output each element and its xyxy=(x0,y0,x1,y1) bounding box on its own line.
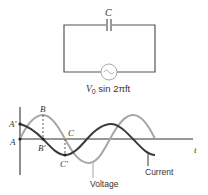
capacitor-ac-diagram: C V0 sin 2πft t A A′ B B′ C C′ xyxy=(0,0,208,195)
label-c-prime: C′ xyxy=(60,159,69,169)
current-label: Current xyxy=(145,167,174,177)
point-b-prime xyxy=(41,137,44,140)
point-a xyxy=(18,137,21,140)
circuit-wire xyxy=(112,25,155,72)
point-c-prime xyxy=(63,153,66,156)
label-a: A xyxy=(9,137,16,147)
label-b: B xyxy=(40,104,46,114)
capacitor-label: C xyxy=(105,7,112,18)
circuit: C V0 sin 2πft xyxy=(64,7,155,95)
voltage-label: Voltage xyxy=(90,179,119,189)
time-axis-label: t xyxy=(194,145,197,155)
label-a-prime: A′ xyxy=(8,119,17,129)
waveform-graph: t A A′ B B′ C C′ Voltage Current xyxy=(8,104,197,189)
point-a-prime xyxy=(18,122,21,125)
label-c: C xyxy=(68,128,75,138)
circuit-wire xyxy=(64,25,106,72)
label-b-prime: B′ xyxy=(38,143,46,153)
source-label: V0 sin 2πft xyxy=(86,83,131,95)
